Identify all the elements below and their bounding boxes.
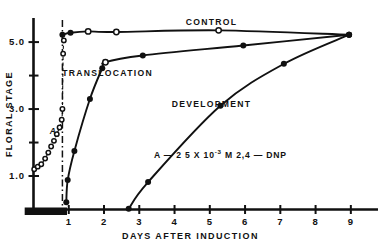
series-label-translocation: TRANSLOCATION (62, 68, 153, 78)
x-tick-label: 4 (171, 216, 177, 227)
data-point-open (216, 28, 221, 33)
data-point-open (85, 29, 90, 34)
data-point-open-small (60, 107, 64, 111)
data-point-open (114, 29, 119, 34)
data-point-open-small (57, 125, 61, 129)
data-point-open-small (60, 118, 64, 122)
data-point-solid (59, 32, 65, 38)
x-tick-label: 5 (207, 216, 213, 227)
data-point-solid (145, 179, 151, 185)
data-point-open-small (62, 38, 66, 42)
x-tick-label: 9 (348, 216, 354, 227)
dnp-annotation: A — 2 5 X 10-3 M 2,4 — DNP (154, 148, 287, 160)
data-point-open-small (49, 144, 53, 148)
x-tick-label: 3 (136, 216, 142, 227)
x-tick-label: 2 (101, 216, 107, 227)
x-axis-title: DAYS AFTER INDUCTION (122, 231, 259, 241)
x-tick-label: 6 (242, 216, 248, 227)
data-point-solid (71, 148, 77, 154)
data-point-open-small (52, 139, 56, 143)
data-point-open (103, 59, 108, 64)
data-point-solid (63, 199, 69, 205)
treatment-period-bar (25, 208, 67, 216)
y-tick-label: 1.0 (9, 170, 25, 181)
data-point-open-small (39, 162, 43, 166)
data-point-open-small (46, 150, 50, 154)
data-point-solid (68, 30, 74, 36)
data-point-solid (65, 177, 71, 183)
floral-stage-chart: 1234567895.03.01.0DAYS AFTER INDUCTIONFL… (0, 0, 384, 245)
series-line-development (129, 35, 349, 209)
chart-canvas: 1234567895.03.01.0DAYS AFTER INDUCTIONFL… (0, 0, 384, 245)
x-tick-label: 1 (66, 216, 72, 227)
x-tick-label: 7 (277, 216, 283, 227)
data-point-solid (126, 206, 132, 212)
data-point-solid (281, 61, 287, 67)
y-tick-label: 5.0 (9, 36, 25, 47)
series-label-control: CONTROL (186, 17, 238, 27)
data-point-solid (87, 96, 93, 102)
data-point-open-small (61, 52, 65, 56)
treatment-marker-label: A (49, 126, 56, 136)
data-point-solid (140, 52, 146, 58)
data-point-solid (240, 42, 246, 48)
series-label-development: DEVELOPMENT (172, 99, 252, 109)
y-axis-title: FLORAL STAGE (4, 71, 14, 157)
data-point-solid (346, 32, 352, 38)
data-point-open-small (43, 156, 47, 160)
x-tick-label: 8 (312, 216, 318, 227)
series-line-control (62, 30, 349, 34)
